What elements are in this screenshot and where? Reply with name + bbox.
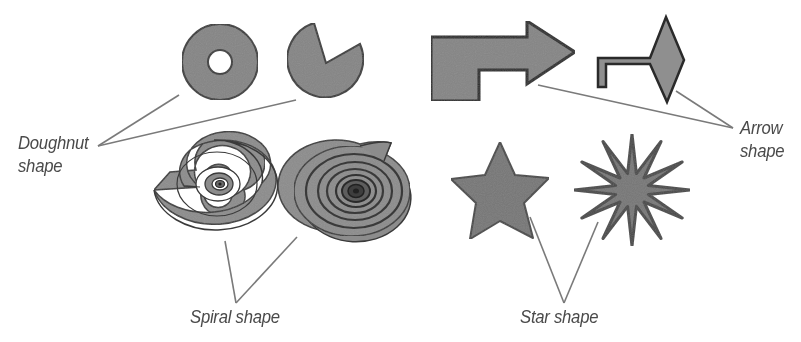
line-arrow-diamond-shape xyxy=(598,17,684,102)
arrow-leader-line-1 xyxy=(538,85,733,128)
doughnut-label-line2: shape xyxy=(18,155,88,178)
star-leader-line-1 xyxy=(530,217,564,303)
arrow-label-line2: shape xyxy=(740,140,784,163)
doughnut-ring-shape xyxy=(182,24,258,100)
star-leader-line-2 xyxy=(564,222,598,303)
doughnut-label: Doughnut shape xyxy=(18,132,88,178)
doughnut-group xyxy=(98,23,363,146)
spiral-leader-line-1 xyxy=(225,241,236,303)
doughnut-leader-line-2 xyxy=(98,100,296,146)
star-group xyxy=(451,134,690,303)
doughnut-leader-line-1 xyxy=(98,95,179,146)
arrow-label: Arrow shape xyxy=(740,117,784,163)
arrow-group xyxy=(431,17,733,128)
open-spiral-shape xyxy=(154,132,278,230)
doughnut-label-line1: Doughnut xyxy=(18,132,88,155)
arrow-label-line1: Arrow xyxy=(740,117,784,140)
spiral-group xyxy=(154,132,411,303)
shapes-diagram xyxy=(0,0,801,342)
spiral-label: Spiral shape xyxy=(190,306,280,329)
pie-wedge-shape xyxy=(287,23,363,97)
five-point-star-shape xyxy=(451,142,549,239)
star-label: Star shape xyxy=(520,306,598,329)
spiral-leader-line-2 xyxy=(236,237,297,303)
tight-spiral-shape xyxy=(278,140,411,242)
starburst-shape xyxy=(574,134,690,246)
